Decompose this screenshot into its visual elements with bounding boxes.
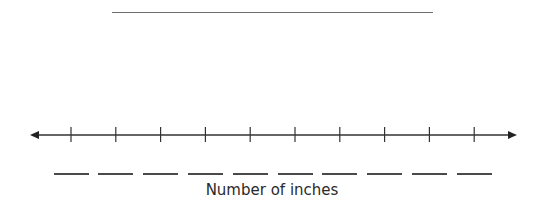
tick-label-blank[interactable] [98, 173, 133, 175]
tick-label-blank[interactable] [233, 173, 268, 175]
tick-label-blank[interactable] [143, 173, 178, 175]
left-arrow-icon [30, 131, 39, 139]
axis-label: Number of inches [0, 181, 538, 199]
tick-label-blank[interactable] [457, 173, 492, 175]
right-arrow-icon [508, 131, 517, 139]
tick-label-blank[interactable] [367, 173, 402, 175]
tick-label-blank[interactable] [412, 173, 447, 175]
tick-label-blank[interactable] [278, 173, 313, 175]
tick-label-blank[interactable] [54, 173, 89, 175]
tick-label-blank[interactable] [188, 173, 223, 175]
tick-label-blank[interactable] [322, 173, 357, 175]
